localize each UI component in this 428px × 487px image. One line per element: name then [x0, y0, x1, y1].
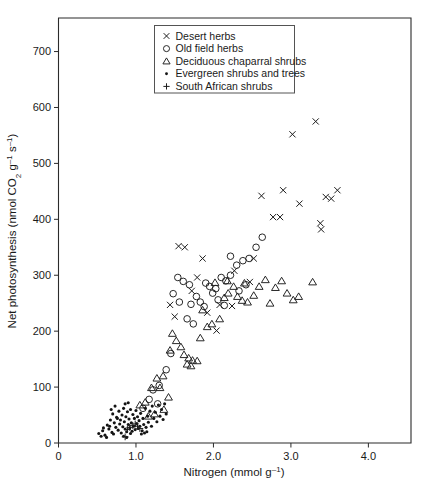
chart-legend: Desert herbsOld field herbsDeciduous cha… — [155, 26, 307, 94]
data-point — [218, 274, 225, 281]
data-point — [323, 194, 329, 200]
data-point — [151, 405, 154, 408]
y-tick-label: 300 — [33, 269, 51, 281]
legend-item-label: South African shrubs — [176, 80, 273, 92]
data-point — [168, 330, 176, 337]
data-point — [129, 408, 132, 411]
data-point — [180, 278, 187, 285]
legend-item[interactable]: Evergreen shrubs and trees — [165, 67, 305, 79]
data-point — [120, 413, 123, 416]
data-point — [227, 253, 234, 260]
data-point — [155, 420, 158, 423]
data-point — [177, 343, 185, 350]
data-point — [280, 187, 286, 193]
data-point — [123, 420, 126, 423]
y-axis-title: Net photosynthesis (nmol CO2 g–1 s–1) — [5, 133, 23, 328]
data-point — [117, 429, 120, 432]
data-point — [309, 278, 317, 285]
data-point — [318, 226, 324, 232]
data-point — [122, 407, 125, 410]
data-point — [186, 281, 193, 288]
data-point — [197, 299, 204, 306]
data-point — [229, 303, 235, 309]
data-point — [283, 290, 291, 297]
legend-item[interactable]: Old field herbs — [163, 42, 243, 54]
data-point — [172, 314, 178, 320]
data-point — [122, 433, 129, 440]
plot-canvas: 010020030040050060070001.02.03.04.0 Dese… — [0, 0, 428, 487]
legend-item-label: Evergreen shrubs and trees — [176, 67, 306, 79]
data-point — [158, 415, 161, 418]
data-point — [172, 337, 180, 344]
data-point — [313, 118, 319, 124]
data-point — [160, 408, 163, 411]
data-point — [133, 417, 136, 420]
data-point — [196, 334, 204, 341]
data-point — [199, 255, 205, 261]
data-point — [258, 193, 264, 199]
data-point — [134, 409, 137, 412]
data-point — [289, 131, 295, 137]
data-point — [317, 220, 323, 226]
data-point — [212, 285, 219, 292]
legend-item-label: Desert herbs — [176, 30, 236, 42]
y-tick-label: 500 — [33, 157, 51, 169]
data-point — [114, 426, 117, 429]
y-axis-title-text: Net photosynthesis (nmol CO2 g–1 s–1) — [5, 133, 23, 328]
data-point — [101, 429, 104, 432]
data-point — [100, 435, 103, 438]
data-point — [116, 417, 119, 420]
data-point — [152, 417, 155, 420]
data-point — [270, 214, 276, 220]
y-tick-label: 200 — [33, 325, 51, 337]
data-point — [124, 427, 127, 430]
data-point — [246, 255, 253, 262]
data-point — [163, 402, 166, 405]
data-point — [255, 283, 263, 290]
data-point — [148, 410, 151, 413]
dot-marker-icon — [165, 72, 168, 75]
data-point — [233, 262, 240, 269]
data-point — [277, 214, 283, 220]
data-point — [176, 299, 183, 306]
data-point — [175, 243, 181, 249]
data-point — [102, 426, 105, 429]
data-point — [165, 394, 173, 401]
data-point — [97, 432, 100, 435]
data-point — [119, 419, 122, 422]
data-point — [131, 413, 134, 416]
x-tick-label: 1.0 — [128, 450, 143, 462]
data-point — [146, 415, 149, 418]
x-tick-label: 4.0 — [361, 450, 376, 462]
data-point — [266, 300, 274, 307]
data-point — [147, 421, 150, 424]
scatter-plot-figure: 010020030040050060070001.02.03.04.0 Dese… — [0, 0, 428, 487]
data-point — [296, 201, 302, 207]
axis-tick-labels: 010020030040050060070001.02.03.04.0 — [33, 45, 376, 461]
legend-item[interactable]: South African shrubs — [163, 80, 272, 92]
data-point — [216, 315, 224, 322]
series-deciduous-chaparral-shrubs — [136, 276, 317, 419]
data-point — [141, 429, 144, 432]
data-point — [112, 433, 115, 436]
data-point — [157, 403, 160, 406]
y-tick-label: 400 — [33, 213, 51, 225]
data-point — [182, 244, 188, 250]
legend-item-label: Old field herbs — [176, 42, 244, 54]
data-point — [117, 410, 120, 413]
x-tick-label: 0 — [55, 450, 61, 462]
data-point — [253, 244, 260, 251]
data-point — [113, 421, 116, 424]
data-point — [127, 417, 130, 420]
data-point — [144, 407, 147, 410]
legend-item[interactable]: Deciduous chaparral shrubs — [163, 55, 306, 67]
data-point — [154, 411, 157, 414]
axis-ticks — [54, 52, 368, 448]
data-point — [141, 399, 149, 406]
data-point — [121, 425, 124, 428]
data-points — [97, 118, 340, 440]
data-point — [240, 257, 247, 264]
data-point — [261, 276, 269, 283]
data-point — [124, 402, 127, 405]
y-tick-label: 600 — [33, 101, 51, 113]
